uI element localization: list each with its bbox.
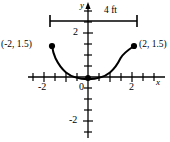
y-tick-label-neg2: -2 [69,115,77,125]
left-endpoint-dot [49,43,55,49]
y-tick-label-2: 2 [73,27,78,37]
parabola-graph-figure: 4 ft (-2, 1.5) (2, 1.5) 2 -2 -2 2 0 x y [0,0,170,142]
dimension-bar [50,15,137,27]
y-axis-label: y [80,1,84,10]
x-tick-label-neg2: -2 [38,82,46,92]
vertex-dot [85,75,91,81]
right-point-label: (2, 1.5) [139,40,167,50]
dimension-label: 4 ft [104,6,117,16]
x-tick-label-2: 2 [129,82,134,92]
parabola-curve [52,46,134,79]
left-point-label: (-2, 1.5) [1,40,32,50]
right-endpoint-dot [131,43,137,49]
x-axis-label: x [156,78,160,87]
origin-label: 0 [79,82,84,92]
graph-canvas [0,0,170,142]
